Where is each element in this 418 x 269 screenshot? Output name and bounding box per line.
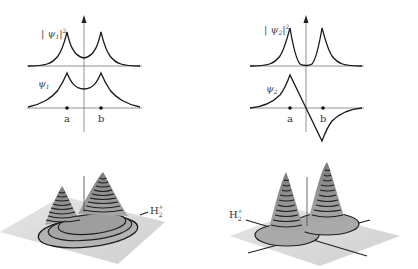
- nucleus-a-dot: [65, 106, 69, 110]
- surface-label-1: H2+: [150, 203, 164, 218]
- antibonding-surface-plot: H2+: [229, 162, 400, 266]
- antibonding-orbital-plot: | ψ2|2 ψ2 a b: [250, 15, 364, 141]
- nucleus-a-label: a: [287, 113, 293, 124]
- density-label-1: | ψ1|2: [41, 27, 67, 40]
- bonding-surface-plot: H2+: [0, 172, 165, 264]
- axis-arrow-icon: [82, 15, 87, 23]
- nucleus-b-label: b: [320, 113, 326, 124]
- nucleus-b-dot: [99, 106, 103, 110]
- diagram-canvas: | ψ1|2 ψ1 a b | ψ2|2 ψ2 a b: [0, 0, 418, 269]
- wave-label-1: ψ1: [38, 78, 50, 90]
- surface-label-2: H2+: [229, 207, 243, 222]
- nucleus-a-label: a: [64, 113, 70, 124]
- wave-label-2: ψ2: [266, 83, 278, 95]
- bonding-orbital-plot: | ψ1|2 ψ1 a b: [27, 15, 142, 132]
- density-label-2: | ψ2|2: [264, 23, 290, 36]
- label-pointer: [140, 212, 148, 215]
- nucleus-a-dot: [288, 106, 292, 110]
- nucleus-b-label: b: [98, 113, 104, 124]
- axis-arrow-icon: [304, 15, 309, 23]
- nucleus-b-dot: [321, 106, 325, 110]
